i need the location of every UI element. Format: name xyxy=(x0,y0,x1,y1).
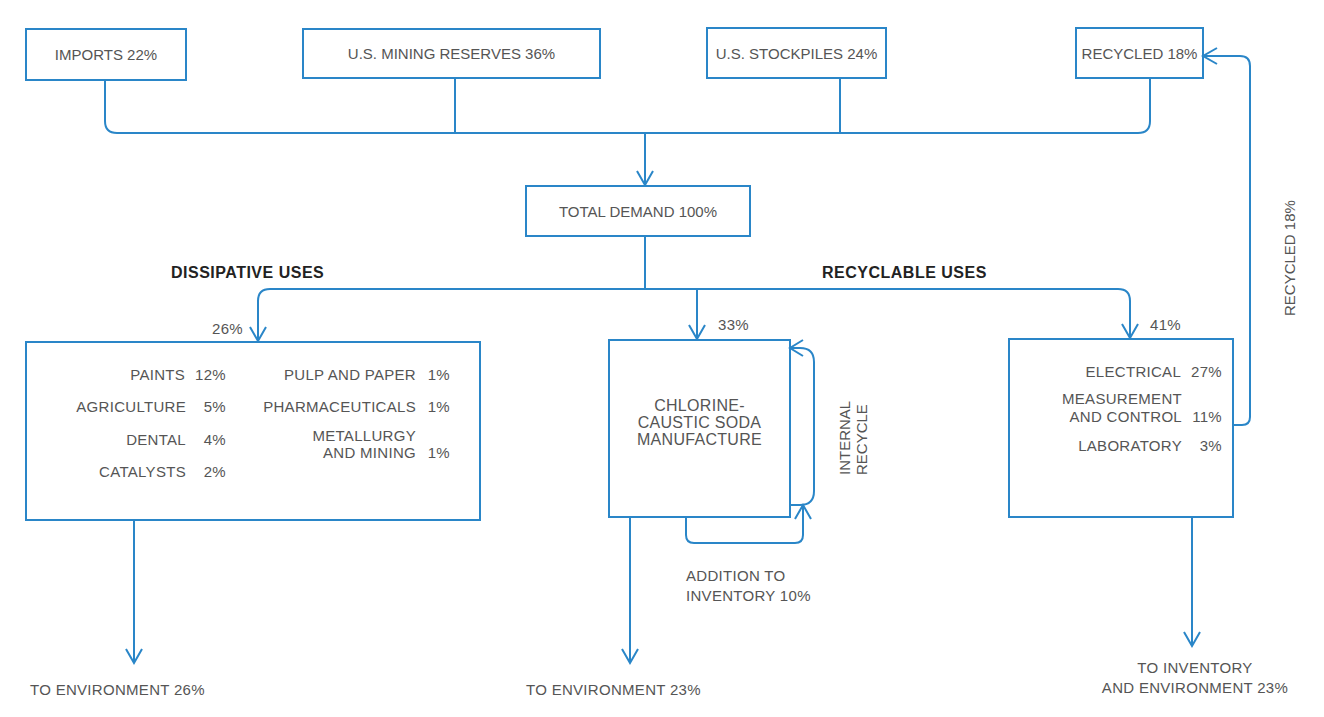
stockpiles-label: U.S. STOCKPILES 24% xyxy=(708,29,885,77)
item-name-line2: AND MINING xyxy=(312,444,416,461)
item-name: PAINTS xyxy=(130,366,185,383)
total-demand-box: TOTAL DEMAND 100% xyxy=(525,185,751,237)
dissipative-left-list: PAINTS12% AGRICULTURE5% DENTAL4% CATALYS… xyxy=(40,366,226,480)
item-name-line2: AND CONTROL xyxy=(1062,408,1182,425)
chlorine-label: CHLORINE- CAUSTIC SODA MANUFACTURE xyxy=(608,398,791,448)
internal-recycle-loop xyxy=(790,348,814,505)
list-item: CATALYSTS2% xyxy=(40,463,226,480)
dissipative-right-list: PULP AND PAPER1% PHARMACEUTICALS1% METAL… xyxy=(240,366,450,461)
recyclable-uses-header: RECYCLABLE USES xyxy=(822,264,987,282)
list-item: PULP AND PAPER1% xyxy=(240,366,450,383)
recycled-side-label: RECYCLED 18% xyxy=(1281,200,1298,316)
item-name: ELECTRICAL xyxy=(1086,363,1182,380)
list-item: LABORATORY3% xyxy=(1020,437,1222,454)
item-name: CATALYSTS xyxy=(99,463,186,480)
item-pct: 4% xyxy=(196,431,226,448)
list-item: MEASUREMENT AND CONTROL 11% xyxy=(1020,390,1222,425)
dissipative-uses-header: DISSIPATIVE USES xyxy=(171,264,324,282)
item-pct: 1% xyxy=(426,398,450,415)
item-name-line1: MEASUREMENT xyxy=(1062,390,1182,407)
addition-to-inventory-label: ADDITION TO INVENTORY 10% xyxy=(686,566,811,607)
list-item: PAINTS12% xyxy=(40,366,226,383)
chlorine-pct: 33% xyxy=(718,316,749,333)
addition-line2: INVENTORY 10% xyxy=(686,586,811,606)
recycled-box: RECYCLED 18% xyxy=(1075,27,1204,79)
chlorine-output-label: TO ENVIRONMENT 23% xyxy=(526,681,701,698)
dissipative-branch xyxy=(258,289,645,341)
mining-reserves-label: U.S. MINING RESERVES 36% xyxy=(304,30,599,77)
internal-recycle-label: INTERNAL RECYCLE xyxy=(836,401,871,475)
dissipative-output-label: TO ENVIRONMENT 26% xyxy=(30,681,205,698)
imports-connector xyxy=(105,78,1150,133)
item-name: PULP AND PAPER xyxy=(284,366,416,383)
recyclable-pct: 41% xyxy=(1150,316,1181,333)
chlorine-line2: CAUSTIC SODA xyxy=(608,415,791,432)
item-pct: 12% xyxy=(195,366,226,383)
list-item: DENTAL4% xyxy=(40,431,226,448)
item-name: MEASUREMENT AND CONTROL xyxy=(1062,390,1182,425)
mining-reserves-box: U.S. MINING RESERVES 36% xyxy=(302,28,601,79)
recycled-label: RECYCLED 18% xyxy=(1077,29,1202,77)
item-pct: 1% xyxy=(426,366,450,383)
item-name: PHARMACEUTICALS xyxy=(263,398,416,415)
item-name-line1: METALLURGY xyxy=(312,427,416,444)
item-pct: 3% xyxy=(1192,437,1222,454)
item-pct: 2% xyxy=(196,463,226,480)
item-name: LABORATORY xyxy=(1078,437,1182,454)
recyclable-output-label: TO INVENTORY AND ENVIRONMENT 23% xyxy=(1100,658,1290,697)
item-name: AGRICULTURE xyxy=(76,398,186,415)
item-pct: 1% xyxy=(426,444,450,461)
item-name: METALLURGY AND MINING xyxy=(312,427,416,462)
recyclable-output-line2: AND ENVIRONMENT 23% xyxy=(1100,678,1290,698)
imports-box: IMPORTS 22% xyxy=(25,28,187,81)
item-pct: 5% xyxy=(196,398,226,415)
stockpiles-box: U.S. STOCKPILES 24% xyxy=(706,27,887,79)
item-pct: 27% xyxy=(1191,363,1222,380)
recyclable-output-line1: TO INVENTORY xyxy=(1100,658,1290,678)
recyclable-list: ELECTRICAL27% MEASUREMENT AND CONTROL 11… xyxy=(1020,363,1222,454)
dissipative-pct: 26% xyxy=(212,320,243,337)
internal-recycle-line2: RECYCLE xyxy=(853,401,870,475)
chlorine-line3: MANUFACTURE xyxy=(608,432,791,449)
internal-recycle-line1: INTERNAL xyxy=(836,401,853,475)
list-item: AGRICULTURE5% xyxy=(40,398,226,415)
addition-line1: ADDITION TO xyxy=(686,566,811,586)
chlorine-line1: CHLORINE- xyxy=(608,398,791,415)
item-pct: 11% xyxy=(1192,408,1222,425)
list-item: PHARMACEUTICALS1% xyxy=(240,398,450,415)
list-item: ELECTRICAL27% xyxy=(1020,363,1222,380)
item-name: DENTAL xyxy=(126,431,186,448)
imports-label: IMPORTS 22% xyxy=(27,30,185,79)
total-demand-label: TOTAL DEMAND 100% xyxy=(527,187,749,235)
list-item: METALLURGY AND MINING 1% xyxy=(240,427,450,462)
